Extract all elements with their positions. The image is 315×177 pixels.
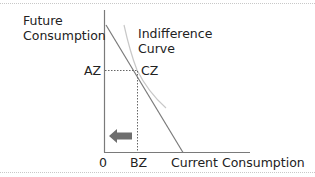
left-arrow-icon — [109, 129, 132, 143]
curve-label-line1: Indifference — [138, 26, 212, 41]
origin-label: 0 — [99, 155, 107, 170]
x-axis-label: Current Consumption — [171, 155, 305, 170]
bz-label: BZ — [130, 155, 147, 170]
cz-label: CZ — [141, 63, 158, 78]
az-label: AZ — [84, 63, 101, 78]
curve-label-line2: Curve — [138, 41, 175, 56]
y-axis-label-line2: Consumption — [23, 28, 106, 43]
y-axis-label-line1: Future — [23, 13, 63, 28]
